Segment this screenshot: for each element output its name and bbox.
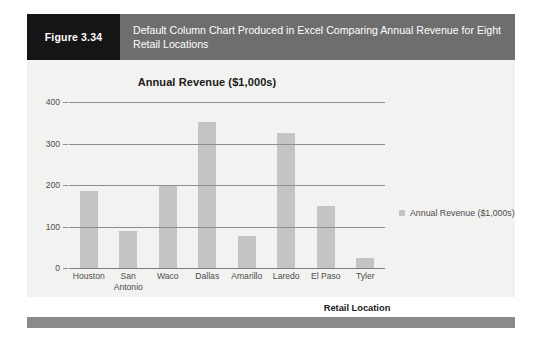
figure-page: Figure 3.34 Default Column Chart Produce… — [0, 0, 541, 347]
y-axis-tick — [63, 227, 68, 228]
bar[interactable] — [238, 236, 256, 268]
x-axis-label: Tyler — [346, 271, 386, 292]
y-axis-tick-label: 400 — [46, 97, 60, 107]
legend-swatch-icon — [399, 210, 405, 216]
y-axis-tick-label: 300 — [46, 139, 60, 149]
x-axis-label: Houston — [69, 271, 109, 292]
figure-header-banner: Figure 3.34 Default Column Chart Produce… — [27, 14, 515, 60]
gridline — [69, 144, 385, 145]
x-axis-label: Amarillo — [227, 271, 267, 292]
y-axis-tick — [63, 144, 68, 145]
plot-area: 0100200300400 — [69, 102, 385, 268]
gridline — [69, 227, 385, 228]
chart-title: Annual Revenue ($1,000s) — [27, 76, 387, 88]
x-axis-label: Dallas — [188, 271, 228, 292]
figure-number-label: Figure 3.34 — [45, 31, 103, 43]
bar[interactable] — [80, 191, 98, 268]
x-axis-label: Waco — [148, 271, 188, 292]
x-axis-label: Laredo — [267, 271, 307, 292]
figure-number-block: Figure 3.34 — [27, 14, 120, 60]
legend-label: Annual Revenue ($1,000s) — [410, 208, 515, 218]
y-axis-tick-label: 100 — [46, 222, 60, 232]
chart-legend: Annual Revenue ($1,000s) — [399, 208, 515, 218]
figure-caption-text: Default Column Chart Produced in Excel C… — [133, 23, 505, 52]
bar[interactable] — [119, 231, 137, 268]
figure-card: Figure 3.34 Default Column Chart Produce… — [27, 14, 515, 297]
gridline — [69, 268, 385, 269]
y-axis-tick-label: 0 — [55, 263, 60, 273]
page-footer-bar — [27, 317, 515, 328]
chart-area: Annual Revenue ($1,000s) 0100200300400 H… — [27, 60, 515, 297]
y-axis-tick — [63, 268, 68, 269]
figure-caption-block: Default Column Chart Produced in Excel C… — [120, 14, 515, 60]
gridline — [69, 102, 385, 103]
x-axis-labels: HoustonSanAntonioWacoDallasAmarilloLared… — [69, 271, 385, 292]
x-axis-label: El Paso — [306, 271, 346, 292]
bar[interactable] — [356, 258, 374, 268]
y-axis-tick — [63, 185, 68, 186]
y-axis-tick-label: 200 — [46, 180, 60, 190]
x-axis-label: SanAntonio — [109, 271, 149, 292]
gridline — [69, 185, 385, 186]
y-axis-tick — [63, 102, 68, 103]
bar[interactable] — [317, 206, 335, 268]
x-axis-title: Retail Location — [267, 303, 447, 313]
bar[interactable] — [277, 133, 295, 268]
